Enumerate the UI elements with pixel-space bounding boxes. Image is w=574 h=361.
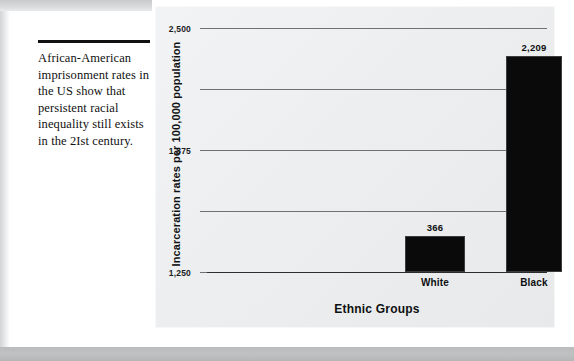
frame-band-bottom bbox=[0, 347, 574, 361]
bar-black: 2,209Black bbox=[506, 56, 562, 272]
y-axis-tick: 2,500 bbox=[200, 28, 207, 29]
chart-panel: 06251,2501,8752,500366White2,209Black759… bbox=[155, 6, 555, 328]
caption-divider-rule bbox=[38, 40, 150, 43]
bar-value-label: 366 bbox=[427, 222, 443, 233]
y-axis-tick: 1,250 bbox=[200, 150, 207, 151]
y-axis-title-label: Incarceration rates per 100,000 populati… bbox=[170, 42, 182, 267]
x-axis-category-label: Black bbox=[520, 277, 548, 288]
x-axis-baseline bbox=[207, 272, 547, 273]
frame-band-top-left bbox=[0, 0, 152, 11]
y-axis-tick: 625 bbox=[200, 211, 207, 212]
bar-value-label: 2,209 bbox=[522, 42, 547, 53]
caption-column: African-American imprisonment rates in t… bbox=[38, 40, 150, 150]
y-axis-tick: 1,875 bbox=[200, 89, 207, 90]
y-axis-tick: 0 bbox=[200, 272, 207, 273]
plot-area: 06251,2501,8752,500366White2,209Black759… bbox=[207, 28, 547, 272]
gridline bbox=[207, 28, 547, 29]
bar-white: 366White bbox=[405, 236, 465, 272]
x-axis-title: Ethnic Groups bbox=[207, 302, 547, 316]
screenshot-root: African-American imprisonment rates in t… bbox=[0, 0, 574, 361]
frame-band-left bbox=[0, 11, 10, 347]
gridline bbox=[207, 150, 547, 151]
caption-text: African-American imprisonment rates in t… bbox=[38, 50, 150, 150]
gridline bbox=[207, 89, 547, 90]
gridline bbox=[207, 211, 547, 212]
y-axis-title: Incarceration rates per 100,000 populati… bbox=[167, 30, 185, 278]
x-axis-category-label: White bbox=[421, 277, 449, 288]
